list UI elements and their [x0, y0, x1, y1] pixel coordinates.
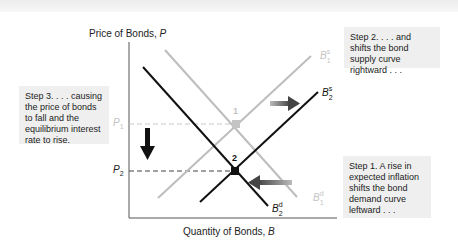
step-3-note: Step 3. . . . causing the price of bonds… — [19, 86, 109, 144]
bd1-label: Bd1 — [313, 192, 320, 203]
step-1-note: Step 1. A rise in expected inflation shi… — [343, 156, 431, 218]
p2-label: P2 — [113, 164, 124, 177]
supply-shift-right-arrow-icon — [270, 96, 300, 111]
equilibrium-point-2 — [231, 167, 239, 175]
point-1-label: 1 — [233, 106, 238, 116]
step-2-note: Step 2. . . . and shifts the bond supply… — [344, 27, 440, 68]
demand-shift-left-arrow-icon — [248, 175, 292, 190]
bs1-label: Bs1 — [320, 50, 327, 61]
point-2-label: 2 — [232, 153, 237, 163]
p1-label: P1 — [113, 117, 124, 130]
price-fall-down-arrow-icon — [140, 128, 155, 160]
x-axis-title: Quantity of Bonds, B — [183, 226, 275, 237]
y-axis-title: Price of Bonds, P — [89, 28, 166, 39]
bd2-label: Bd2 — [272, 203, 279, 214]
bd2-curve — [143, 67, 268, 206]
bs2-label: Bs2 — [322, 87, 329, 98]
equilibrium-point-1 — [232, 120, 240, 128]
